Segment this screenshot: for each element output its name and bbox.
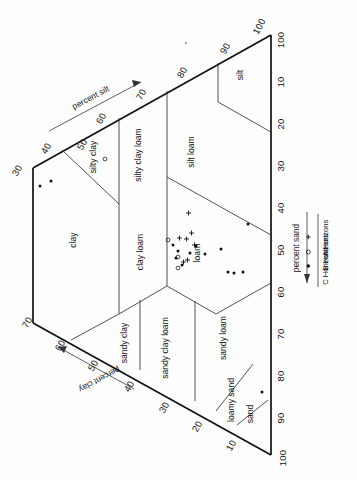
soil-texture-triangle-figure: 100 10 20 30 40 50 60 70 80 90 100 90 80… (0, 0, 357, 480)
class-label-sandy-clay: sandy clay (119, 322, 129, 363)
legend-label-c-horizons: C Horizons (321, 247, 330, 285)
tick-silt-70: 70 (133, 87, 148, 102)
divider-loam-bottomleft (119, 286, 167, 314)
tick-sand-10: 10 (275, 77, 286, 88)
tick-sand-80: 80 (275, 371, 286, 382)
tick-sand-40: 40 (275, 203, 286, 214)
class-label-silty-clay-loam: silty clay loam (133, 128, 143, 181)
tick-silt-40: 40 (38, 141, 53, 156)
data-point (177, 236, 182, 241)
divider-loam-bottomright (167, 286, 216, 314)
tick-silt-90: 90 (217, 41, 232, 56)
data-point (242, 271, 245, 274)
data-point (172, 244, 175, 247)
class-label-silt-loam: silt loam (186, 136, 196, 168)
tick-sand-90: 90 (275, 413, 286, 424)
class-label-clay-loam: clay loam (135, 234, 145, 270)
tick-sand-100: 100 (275, 32, 286, 48)
tick-sand-70: 70 (275, 329, 286, 340)
tick-silt-60: 60 (93, 111, 108, 126)
data-point (247, 223, 250, 226)
silt-axis-title-group: percent silt (49, 80, 141, 131)
sand-axis-ticks: 100 10 20 30 40 50 60 70 80 90 100 (275, 32, 288, 466)
divider-siltyclayloam-bottom (167, 177, 271, 235)
data-point (204, 253, 207, 256)
silt-axis-title: percent silt (70, 83, 111, 111)
data-point (261, 391, 264, 394)
class-label-sand: sand (245, 404, 255, 423)
data-point (220, 248, 223, 251)
divider-silt-lower (218, 102, 271, 132)
tick-sand-20: 20 (275, 119, 286, 130)
tick-sand-60: 60 (275, 287, 286, 298)
data-point (227, 271, 230, 274)
legend: A Horizons B Horizons C Horizons (306, 214, 330, 287)
tick-sand-100-bottom: 100 (277, 450, 288, 466)
tick-clay-10: 10 (223, 438, 238, 453)
tick-silt-30: 30 (9, 163, 24, 178)
class-label-silt: silt (235, 69, 245, 80)
filled-circle-marker (307, 264, 310, 267)
silt-axis-edge (33, 35, 271, 168)
sand-axis-title: percent sand (291, 223, 301, 272)
class-label-loamy-sand: loamy sand (226, 378, 236, 422)
data-point (184, 237, 189, 242)
divider-loam-right (216, 283, 271, 314)
class-label-silty-clay-1: silty clay (88, 140, 98, 173)
data-point (176, 266, 180, 270)
divider-clay-sandyclay (71, 314, 119, 340)
sand-axis-arrowhead (304, 274, 310, 283)
class-label-sandy-clay-loam: sandy clay loam (160, 317, 170, 379)
data-point (103, 157, 107, 161)
sand-axis-title-group: percent sand (291, 212, 310, 283)
tick-silt-100: 100 (250, 16, 268, 36)
triangle-plot-canvas: 100 10 20 30 40 50 60 70 80 90 100 90 80… (0, 0, 357, 480)
clay-axis-title: percent clay (76, 365, 121, 395)
class-label-sandy-loam: sandy loam (218, 316, 228, 360)
class-label-clay: clay (68, 232, 78, 248)
data-point (233, 272, 236, 275)
data-point (177, 250, 180, 253)
tick-clay-30: 30 (156, 400, 171, 415)
scan-speck (185, 42, 186, 43)
tick-clay-20: 20 (189, 419, 204, 434)
tick-sand-50: 50 (275, 245, 286, 256)
tick-sand-30: 30 (275, 161, 286, 172)
tick-silt-80: 80 (174, 65, 189, 80)
data-point (50, 180, 53, 183)
data-point (189, 231, 194, 236)
data-point (186, 211, 191, 216)
data-point (39, 185, 42, 188)
data-point (189, 252, 192, 255)
